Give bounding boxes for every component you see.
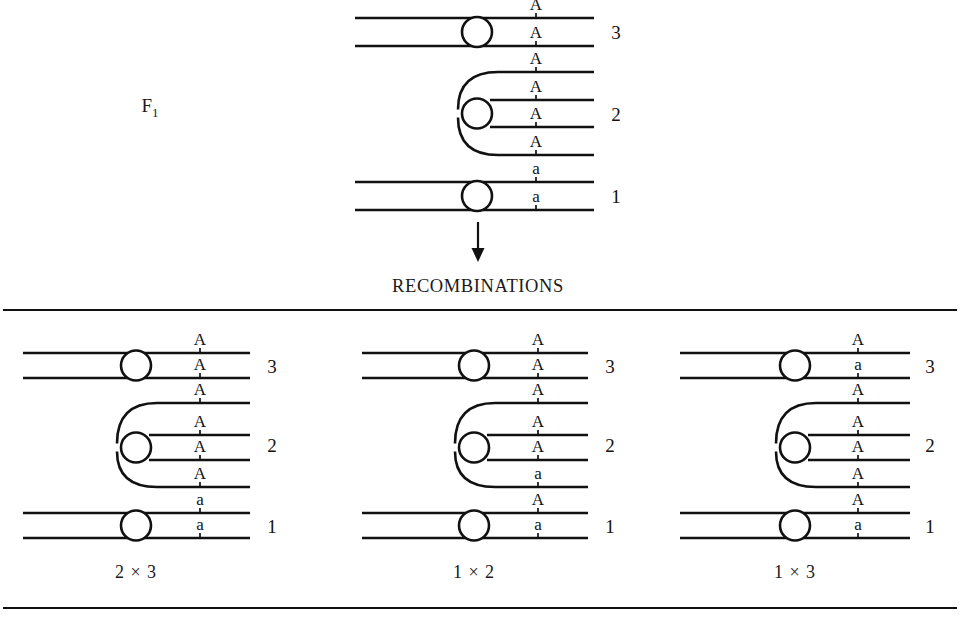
linkage-group-number: 1	[267, 516, 277, 537]
allele-label: A	[532, 437, 545, 456]
centromere-circle	[780, 511, 810, 541]
allele-label: A	[852, 490, 865, 509]
figure-canvas: AA3AAAA2aa1 AA3AAAA2aa12 × 3AA3AAAa2Aa11…	[0, 0, 960, 624]
allele-label: A	[852, 464, 865, 483]
allele-label: A	[530, 132, 543, 151]
linkage-group-number: 1	[925, 516, 935, 537]
centromere-circle	[462, 17, 492, 47]
centromere-circle	[462, 181, 492, 211]
linkage-group-number: 2	[611, 104, 621, 125]
linkage-group-1: Aa1	[680, 490, 935, 541]
f1-configuration: AA3AAAA2aa1	[355, 0, 621, 211]
allele-label: A	[194, 380, 207, 399]
centromere-circle	[780, 433, 810, 463]
linkage-group-number: 3	[925, 356, 935, 377]
panel-caption: 2 × 3	[115, 562, 157, 582]
linkage-group-3: AA3	[355, 0, 621, 47]
linkage-group-3: AA3	[362, 330, 615, 381]
allele-label: a	[534, 515, 542, 534]
recombinations-heading: RECOMBINATIONS	[392, 276, 564, 296]
allele-label: A	[194, 330, 207, 349]
allele-label: a	[534, 464, 542, 483]
centromere-circle	[462, 99, 492, 129]
linkage-group-1: aa1	[23, 490, 277, 541]
recombination-panels-group: AA3AAAA2aa12 × 3AA3AAAa2Aa11 × 2Aa3AAAA2…	[23, 330, 935, 582]
allele-label: A	[532, 490, 545, 509]
linkage-group-number: 3	[267, 356, 277, 377]
linkage-group-number: 1	[611, 186, 621, 207]
linkage-group-2: AAAa2	[455, 380, 615, 488]
linkage-group-number: 2	[605, 435, 615, 456]
allele-label: A	[532, 380, 545, 399]
linkage-group-2: AAAA2	[458, 49, 621, 156]
allele-label: a	[196, 515, 204, 534]
f1-diagram-group: AA3AAAA2aa1	[355, 0, 621, 211]
panel-caption: 1 × 2	[453, 562, 495, 582]
linkage-group-2: AAAA2	[776, 380, 935, 488]
allele-label: a	[854, 515, 862, 534]
centromere-circle	[121, 433, 151, 463]
arrow-group	[472, 222, 485, 262]
centromere-circle	[121, 511, 151, 541]
allele-label: A	[530, 23, 543, 42]
recombination-panel-1x2: AA3AAAa2Aa1	[362, 330, 615, 541]
allele-label: A	[532, 355, 545, 374]
centromere-circle	[459, 433, 489, 463]
centromere-circle	[459, 351, 489, 381]
allele-label: A	[194, 412, 207, 431]
allele-label: A	[194, 355, 207, 374]
panel-caption: 1 × 3	[774, 562, 816, 582]
allele-label: A	[194, 437, 207, 456]
allele-label: A	[530, 0, 543, 14]
linkage-group-3: AA3	[23, 330, 277, 381]
linkage-group-number: 3	[605, 356, 615, 377]
f1-stage-label-subscript: 1	[152, 105, 159, 120]
allele-label: A	[852, 330, 865, 349]
f1-stage-label: F1	[141, 95, 158, 120]
allele-label: A	[852, 437, 865, 456]
centromere-circle	[121, 351, 151, 381]
arrow-head-icon	[472, 248, 485, 262]
f1-stage-label-letter: F	[141, 95, 152, 116]
allele-label: A	[530, 49, 543, 68]
linkage-group-number: 3	[611, 22, 621, 43]
allele-label: a	[854, 355, 862, 374]
recombination-figure: AA3AAAA2aa1 AA3AAAA2aa12 × 3AA3AAAa2Aa11…	[0, 0, 960, 624]
allele-label: a	[196, 490, 204, 509]
linkage-group-1: aa1	[355, 159, 621, 211]
figure-text-group: F1 RECOMBINATIONS	[141, 95, 563, 296]
allele-label: a	[532, 159, 540, 178]
linkage-group-2: AAAA2	[117, 380, 277, 488]
allele-label: A	[852, 412, 865, 431]
centromere-circle	[780, 351, 810, 381]
centromere-circle	[459, 511, 489, 541]
allele-label: A	[530, 77, 543, 96]
allele-label: A	[852, 380, 865, 399]
allele-label: A	[530, 104, 543, 123]
allele-label: A	[532, 412, 545, 431]
allele-label: a	[532, 187, 540, 206]
linkage-group-number: 2	[925, 435, 935, 456]
recombination-panel-1x3: Aa3AAAA2Aa1	[680, 330, 935, 541]
allele-label: A	[194, 464, 207, 483]
recombination-panel-2x3: AA3AAAA2aa1	[23, 330, 277, 541]
allele-label: A	[532, 330, 545, 349]
linkage-group-3: Aa3	[680, 330, 935, 381]
linkage-group-number: 1	[605, 516, 615, 537]
linkage-group-number: 2	[267, 435, 277, 456]
linkage-group-1: Aa1	[362, 490, 615, 541]
